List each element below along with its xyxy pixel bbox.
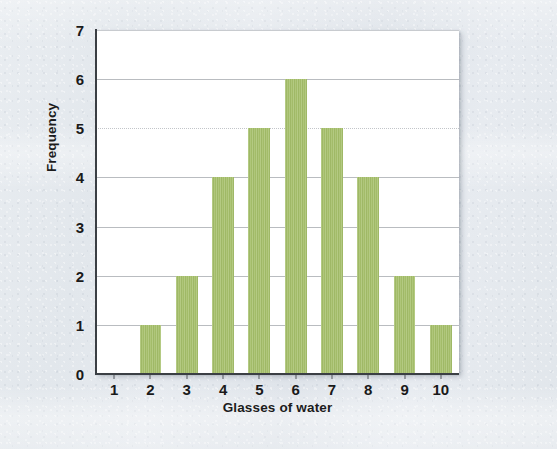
y-axis-tick-labels: 01234567: [54, 30, 84, 374]
x-axis-tick-label: 4: [219, 382, 227, 397]
scanned-page: Frequency 01234567 12345678910 Glasses o…: [0, 0, 557, 449]
y-axis-tick-label: 6: [54, 72, 84, 87]
y-axis-tick-label: 1: [54, 317, 84, 332]
y-axis-tick-label: 5: [54, 121, 84, 136]
bar: [394, 276, 416, 374]
x-axis-tick-label: 1: [110, 382, 118, 397]
bar: [285, 79, 307, 374]
x-axis-tick-label: 2: [146, 382, 154, 397]
x-axis-title: Glasses of water: [96, 400, 459, 415]
bar: [248, 128, 270, 374]
x-axis-tick-label: 10: [433, 382, 450, 397]
bar: [140, 325, 162, 374]
y-axis-tick-label: 7: [54, 23, 84, 38]
x-axis-tick-label: 8: [364, 382, 372, 397]
bar: [430, 325, 452, 374]
x-axis-tick-label: 9: [400, 382, 408, 397]
x-axis-tick-label: 7: [328, 382, 336, 397]
bar: [212, 177, 234, 374]
bar-chart-figure: Frequency 01234567 12345678910 Glasses o…: [0, 0, 557, 449]
y-axis-tick-label: 3: [54, 219, 84, 234]
bar: [321, 128, 343, 374]
y-axis-tick-label: 0: [54, 367, 84, 382]
bar-series: [96, 30, 459, 374]
x-axis-tick-label: 6: [291, 382, 299, 397]
bar: [357, 177, 379, 374]
plot-area: [96, 30, 459, 374]
bar: [176, 276, 198, 374]
y-axis-tick-label: 2: [54, 268, 84, 283]
x-axis-tick-label: 5: [255, 382, 263, 397]
x-axis-tick-label: 3: [183, 382, 191, 397]
y-axis-tick-label: 4: [54, 170, 84, 185]
